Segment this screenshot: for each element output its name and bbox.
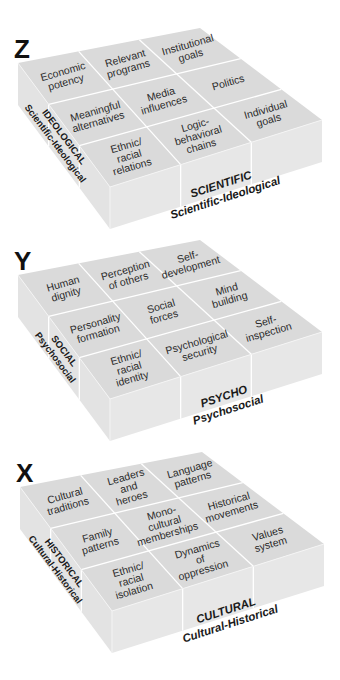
cube-letter: Y (14, 246, 31, 276)
cube-x: CulturaltraditionsLeadersandheroesLangua… (16, 452, 324, 653)
three-cube-model-diagram: EconomicpotencyRelevantprogramsInstituti… (0, 0, 340, 680)
cube-y: HumandignityPerceptionof othersSelf-deve… (14, 240, 322, 441)
cube-letter: Z (14, 34, 30, 64)
cube-z: EconomicpotencyRelevantprogramsInstituti… (14, 28, 322, 229)
cube-letter: X (16, 458, 34, 488)
